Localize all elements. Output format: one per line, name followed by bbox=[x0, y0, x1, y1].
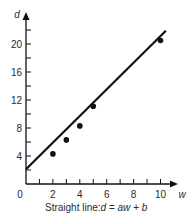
origin-label: 0 bbox=[17, 189, 23, 200]
y-axis-label: d bbox=[14, 9, 20, 20]
caption-rhs2: b bbox=[142, 202, 148, 213]
x-axis-arrow-icon bbox=[170, 181, 178, 188]
data-point bbox=[50, 151, 56, 157]
axes bbox=[23, 12, 179, 188]
caption-eq: = bbox=[106, 202, 117, 213]
caption-prefix: Straight line: bbox=[45, 202, 101, 213]
y-tick-label: 4 bbox=[16, 151, 22, 162]
x-tick-label: 10 bbox=[155, 189, 167, 200]
caption-plus: + bbox=[130, 202, 141, 213]
x-tick-label: 4 bbox=[77, 189, 83, 200]
data-point bbox=[158, 38, 164, 44]
y-tick-label: 12 bbox=[11, 95, 23, 106]
x-tick-label: 2 bbox=[50, 189, 56, 200]
fit-line bbox=[26, 31, 166, 170]
data-point bbox=[64, 137, 70, 143]
scatter-chart: 246810481216200wd bbox=[0, 0, 191, 223]
x-tick-label: 6 bbox=[104, 189, 110, 200]
x-axis-label: w bbox=[178, 189, 186, 200]
data-point bbox=[90, 104, 96, 110]
regression-line bbox=[26, 31, 166, 170]
y-tick-label: 20 bbox=[11, 39, 23, 50]
y-tick-label: 16 bbox=[11, 67, 23, 78]
caption-rhs1: aw bbox=[118, 202, 131, 213]
y-tick-label: 8 bbox=[16, 123, 22, 134]
x-tick-label: 8 bbox=[131, 189, 137, 200]
chart-caption: Straight line: d = aw + b bbox=[0, 202, 191, 213]
data-point bbox=[77, 123, 83, 129]
data-points bbox=[50, 38, 163, 157]
y-axis-arrow-icon bbox=[23, 12, 30, 20]
